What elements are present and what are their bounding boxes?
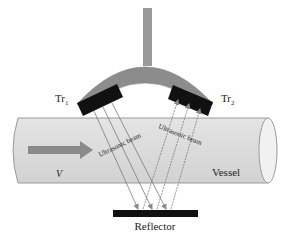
reflector [113,210,198,217]
vessel-label: Vessel [212,166,240,178]
vessel-opening [259,118,277,183]
probe-stem [143,8,152,66]
reflector-label: Reflector [135,220,176,232]
transducer-2-label: Tr2 [221,92,235,107]
ultrasonic-flowmeter-diagram: Tr1 Tr2 Ultrasonic beam Ultrasonic beam … [0,0,281,237]
diagram-canvas: Tr1 Tr2 Ultrasonic beam Ultrasonic beam … [0,0,281,237]
transducer-1-label: Tr1 [55,92,69,107]
